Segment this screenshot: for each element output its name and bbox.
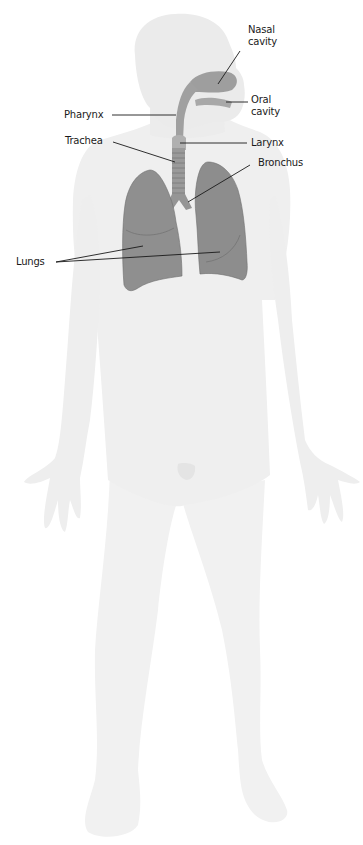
trachea-shape [172,148,185,196]
label-nasal-cavity-line2: cavity [248,36,277,48]
label-nasal-cavity-line1: Nasal [248,24,277,36]
label-lungs: Lungs [16,256,45,268]
label-trachea: Trachea [65,135,103,147]
respiratory-diagram: Nasal cavity Oral cavity Pharynx Trachea… [0,0,363,845]
label-nasal-cavity: Nasal cavity [248,24,277,48]
left-arm [24,195,100,532]
right-arm [269,195,360,524]
label-oral-cavity-line2: cavity [251,106,280,118]
label-bronchus: Bronchus [258,157,303,169]
label-oral-cavity-line1: Oral [251,94,280,106]
label-oral-cavity: Oral cavity [251,94,280,118]
larynx-shape [172,135,186,150]
label-pharynx: Pharynx [64,109,103,121]
left-leg [85,470,178,837]
right-leg [182,480,287,822]
label-larynx: Larynx [251,137,284,149]
